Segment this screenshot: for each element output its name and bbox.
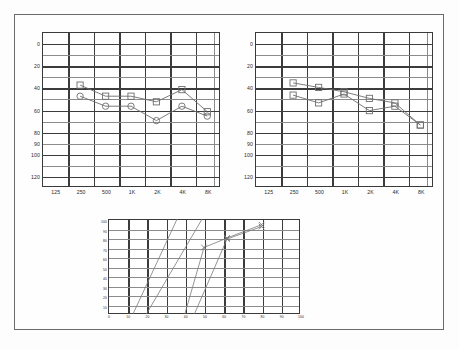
ytick-label-40: 40 [34,85,40,91]
gridline-horizontal-70 [43,122,219,123]
gridline-horizontal-60 [256,111,432,112]
ytick-label-120: 120 [31,174,40,180]
xtick-label-30: 30 [165,315,169,319]
plot-area-audiogram-right: 020406080901001201252505001K2K4K8K [42,32,220,187]
ytick-label-0: 0 [250,41,253,47]
xtick-label-0: 0 [108,315,110,319]
gridline-horizontal-90 [43,144,219,145]
gridline-horizontal-110 [256,166,432,167]
ytick-label-90: 90 [34,141,40,147]
chart-speech-discrimination: 1009080706050403020100102030405060708090… [108,219,300,314]
gridline-horizontal-90 [109,230,299,231]
gridline-horizontal-40 [256,88,432,89]
report-page: 020406080901001201252505001K2K4K8K Audio… [0,0,459,349]
gridline-horizontal-10 [109,306,299,307]
xtick-label-250: 250 [77,189,86,195]
xtick-label-100: 100 [298,315,304,319]
ytick-label-80: 80 [103,239,107,243]
ytick-label-60: 60 [103,258,107,262]
ytick-label-90: 90 [247,141,253,147]
xtick-label-10: 10 [126,315,130,319]
chart-audiogram-left: 020406080901001201252505001K2K4K8K Audio… [255,32,433,187]
gridline-vertical-30 [167,220,168,313]
ytick-label-40: 40 [247,85,253,91]
gridline-vertical-20 [147,220,148,313]
gridline-horizontal-70 [109,249,299,250]
plot-area-audiogram-left: 020406080901001201252505001K2K4K8K [255,32,433,187]
gridline-horizontal-50 [256,99,432,100]
ytick-label-60: 60 [247,108,253,114]
xtick-label-4K: 4K [180,189,187,195]
gridline-horizontal-20 [256,66,432,67]
gridline-vertical-10 [128,220,129,313]
gridline-horizontal-100 [43,155,219,156]
gridline-vertical-70 [243,220,244,313]
gridline-horizontal-0 [43,44,219,45]
xtick-label-20: 20 [145,315,149,319]
xtick-label-8K: 8K [205,189,212,195]
xtick-label-125: 125 [264,189,273,195]
gridline-horizontal-60 [43,111,219,112]
gridline-horizontal-100 [256,155,432,156]
gridline-horizontal-120 [256,177,432,178]
gridline-vertical-40 [186,220,187,313]
ytick-label-90: 90 [103,230,107,234]
ytick-label-20: 20 [247,63,253,69]
gridline-horizontal-30 [43,77,219,78]
gridline-horizontal-20 [43,66,219,67]
ytick-label-100: 100 [244,152,253,158]
chart-audiogram-right: 020406080901001201252505001K2K4K8K Audio… [42,32,220,187]
gridline-horizontal-40 [43,88,219,89]
gridline-horizontal-10 [43,55,219,56]
gridline-horizontal-0 [256,44,432,45]
gridline-vertical-80 [263,220,264,313]
xtick-label-500: 500 [315,189,324,195]
gridline-horizontal-90 [256,144,432,145]
gridline-horizontal-80 [43,133,219,134]
xtick-label-4K: 4K [393,189,400,195]
gridline-horizontal-120 [43,177,219,178]
ytick-label-40: 40 [103,277,107,281]
gridline-horizontal-60 [109,258,299,259]
xtick-label-60: 60 [222,315,226,319]
gridline-horizontal-50 [43,99,219,100]
gridline-horizontal-110 [43,166,219,167]
ytick-label-120: 120 [244,174,253,180]
xtick-label-250: 250 [290,189,299,195]
ytick-label-0: 0 [37,41,40,47]
xtick-label-8K: 8K [418,189,425,195]
xtick-label-2K: 2K [154,189,161,195]
gridline-horizontal-10 [256,55,432,56]
xtick-label-125: 125 [51,189,60,195]
gridline-horizontal-80 [256,133,432,134]
plot-area-speech: 1009080706050403020100102030405060708090… [108,219,300,314]
gridline-vertical-50 [205,220,206,313]
xtick-label-90: 90 [280,315,284,319]
xtick-label-80: 80 [261,315,265,319]
ytick-label-100: 100 [31,152,40,158]
ytick-label-80: 80 [247,130,253,136]
xtick-label-70: 70 [241,315,245,319]
gridline-vertical-90 [282,220,283,313]
gridline-horizontal-30 [109,287,299,288]
xtick-label-1K: 1K [342,189,349,195]
xtick-label-2K: 2K [367,189,374,195]
gridline-horizontal-40 [109,277,299,278]
ytick-label-60: 60 [34,108,40,114]
ytick-label-50: 50 [103,268,107,272]
xtick-label-1K: 1K [129,189,136,195]
ytick-label-10: 10 [103,306,107,310]
xtick-label-500: 500 [102,189,111,195]
ytick-label-70: 70 [103,249,107,253]
ytick-label-20: 20 [103,296,107,300]
ytick-label-100: 100 [101,220,107,224]
gridline-horizontal-70 [256,122,432,123]
gridline-horizontal-50 [109,268,299,269]
ytick-label-30: 30 [103,287,107,291]
gridline-horizontal-20 [109,296,299,297]
gridline-horizontal-80 [109,239,299,240]
xtick-label-50: 50 [203,315,207,319]
gridline-vertical-60 [224,220,225,313]
ytick-label-20: 20 [34,63,40,69]
xtick-label-40: 40 [184,315,188,319]
